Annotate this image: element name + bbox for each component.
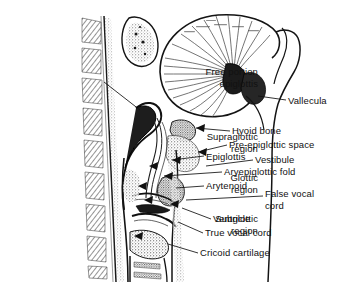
label-vallecula: Vallecula — [288, 95, 327, 107]
label-vestibule: Vestibule — [255, 154, 294, 166]
leader-true-vocal-cord — [178, 222, 203, 233]
label-ventricle: Ventricle — [213, 213, 250, 225]
label-false-vocal-cord: False vocalcord — [265, 188, 314, 211]
label-epiglottis: Epiglottis — [206, 151, 246, 163]
label-aryepiglottic-fold: Aryepiglottic fold — [224, 166, 296, 178]
label-free-portion-epiglottis: Free portionepiglottis — [206, 66, 258, 89]
label-pre-epiglottic-space: Pre-epiglottic space — [229, 139, 314, 151]
label-arytenoid: Arytenoid — [206, 180, 247, 192]
label-cricoid-cartilage: Cricoid cartilage — [200, 247, 270, 259]
label-true-vocal-cord: True vocal cord — [205, 227, 272, 239]
leader-false-vocal-cord — [186, 196, 263, 200]
mandible-cross-section — [122, 17, 158, 66]
label-hyoid-bone: Hyoid bone — [232, 125, 281, 137]
vertebral-column — [82, 16, 124, 282]
larynx-anatomy-figure: Free portionepiglottis Supraglotticregio… — [0, 0, 341, 284]
leader-ventricle — [182, 208, 211, 219]
